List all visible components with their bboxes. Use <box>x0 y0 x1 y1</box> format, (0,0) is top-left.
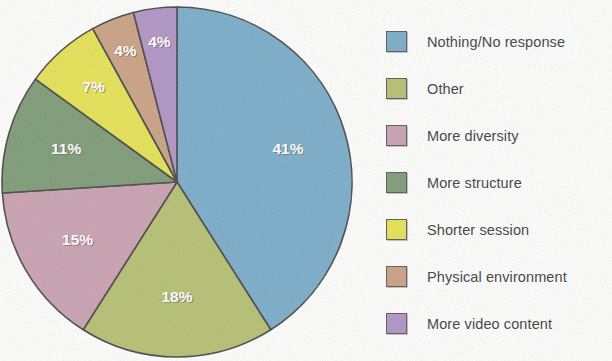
legend-color-swatch <box>386 313 407 334</box>
legend-item-label: More diversity <box>427 128 519 144</box>
legend-item-label: Physical environment <box>427 269 567 285</box>
legend-color-swatch <box>386 219 407 240</box>
pie-slice-value-label: 18% <box>161 288 192 305</box>
pie-slice-value-label: 11% <box>51 140 81 157</box>
legend-item[interactable]: Shorter session <box>386 206 612 253</box>
legend-color-swatch <box>386 172 407 193</box>
pie-slice-value-label: 7% <box>82 78 105 95</box>
pie-slice-value-label: 41% <box>272 140 303 157</box>
legend-item[interactable]: More structure <box>386 159 612 206</box>
legend-color-swatch <box>386 78 407 99</box>
legend-item[interactable]: Other <box>386 65 612 112</box>
legend-color-swatch <box>386 125 407 146</box>
legend-item-label: Shorter session <box>427 222 529 238</box>
pie-chart-svg: 41%41%18%18%15%15%11%11%7%7%4%4%4%4% <box>0 0 380 361</box>
pie-slice-value-label: 4% <box>114 42 137 59</box>
legend-color-swatch <box>386 31 407 52</box>
legend-item[interactable]: Physical environment <box>386 253 612 300</box>
legend-item[interactable]: Nothing/No response <box>386 18 612 65</box>
pie-slice-value-label: 15% <box>62 231 93 248</box>
legend-color-swatch <box>386 266 407 287</box>
pie-chart-plot-area: 41%41%18%18%15%15%11%11%7%7%4%4%4%4% <box>0 0 380 361</box>
legend-item[interactable]: More diversity <box>386 112 612 159</box>
legend-item[interactable]: More video content <box>386 300 612 347</box>
pie-chart-figure: 41%41%18%18%15%15%11%11%7%7%4%4%4%4% Not… <box>0 0 612 361</box>
pie-slice-value-label: 4% <box>148 33 171 50</box>
legend-item-label: More video content <box>427 316 552 332</box>
chart-legend: Nothing/No responseOtherMore diversityMo… <box>386 18 612 347</box>
legend-item-label: Other <box>427 81 464 97</box>
legend-item-label: Nothing/No response <box>427 34 565 50</box>
legend-item-label: More structure <box>427 175 522 191</box>
